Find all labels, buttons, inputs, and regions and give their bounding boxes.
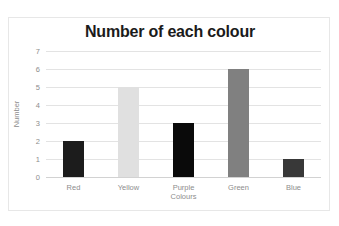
y-axis-tick-label: 5: [36, 83, 40, 92]
x-axis-tick-label: Red: [67, 183, 81, 192]
y-axis-tick-label: 7: [36, 47, 40, 56]
x-axis-tick-label: Blue: [286, 183, 301, 192]
gridline: [46, 105, 321, 106]
x-axis-title: Colours: [46, 192, 321, 201]
cropped-header-text: [0, 0, 339, 9]
bar-red[interactable]: [63, 141, 84, 177]
y-axis-tick-label: 3: [36, 119, 40, 128]
y-axis-tick-label: 2: [36, 137, 40, 146]
y-axis-tick-label: 6: [36, 65, 40, 74]
y-axis-tick-label: 4: [36, 101, 40, 110]
y-axis-tick-label: 1: [36, 155, 40, 164]
bar-purple[interactable]: [173, 123, 194, 177]
y-axis-tick-label: 0: [36, 173, 40, 182]
chart-frame: Number of each colour Number 01234567Red…: [8, 17, 330, 211]
gridline: [46, 69, 321, 70]
gridline: [46, 177, 321, 178]
plot-area: 01234567RedYellowPurpleGreenBlue: [46, 51, 321, 177]
x-axis-tick-label: Yellow: [118, 183, 139, 192]
gridline: [46, 51, 321, 52]
x-axis-tick-label: Green: [228, 183, 249, 192]
x-axis-tick-label: Purple: [173, 183, 195, 192]
chart-title: Number of each colour: [9, 23, 331, 41]
bar-green[interactable]: [228, 69, 249, 177]
bar-yellow[interactable]: [118, 87, 139, 177]
gridline: [46, 87, 321, 88]
bar-blue[interactable]: [283, 159, 304, 177]
y-axis-title: Number: [12, 101, 21, 128]
